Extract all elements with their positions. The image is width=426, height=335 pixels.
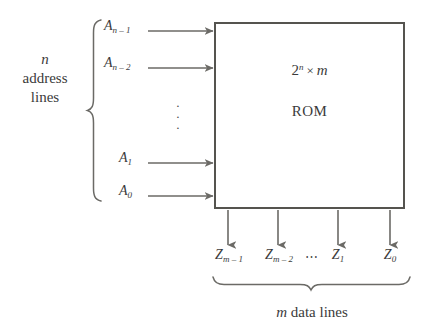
address-line-index-1: n – 2 xyxy=(113,62,131,72)
left-brace-icon xyxy=(88,20,102,201)
address-line-label-0: An – 1 xyxy=(104,18,131,35)
data-line-index-2: 1 xyxy=(340,254,345,264)
address-line-label-3: A0 xyxy=(119,183,132,200)
rom-name-label: ROM xyxy=(214,103,405,120)
address-line-label-2: A1 xyxy=(119,150,132,167)
address-lines-word-lines: lines xyxy=(6,88,84,107)
address-lines-label: n address lines xyxy=(6,50,84,107)
address-lines-word-address: address xyxy=(6,69,84,88)
data-line-base-1: Z xyxy=(265,247,273,262)
address-line-index-3: 0 xyxy=(128,190,133,200)
address-line-base-3: A xyxy=(119,183,128,198)
address-line-index-2: 1 xyxy=(128,157,133,167)
data-line-base-2: Z xyxy=(332,247,340,262)
rom-capacity-base: 2 xyxy=(291,62,299,78)
ellipsis-dot-3: · xyxy=(171,122,185,133)
data-lines-caption: m data lines xyxy=(213,304,411,321)
data-line-index-1: m – 2 xyxy=(273,254,293,264)
rom-capacity-label: 2n×m xyxy=(214,62,405,79)
address-lines-count: n xyxy=(6,50,84,69)
rom-capacity-width: m xyxy=(317,62,328,78)
data-lines-count: m xyxy=(276,304,287,320)
rom-block-diagram: n address lines An – 1 An – 2 A1 A0 · · … xyxy=(0,0,426,335)
data-line-index-0: m – 1 xyxy=(223,254,243,264)
address-lines-vertical-ellipsis: · · · xyxy=(171,100,185,133)
data-line-label-2: Z1 xyxy=(318,247,358,264)
data-line-base-0: Z xyxy=(215,247,223,262)
address-line-base-0: A xyxy=(104,18,113,33)
address-line-index-0: n – 1 xyxy=(113,25,131,35)
address-line-label-1: An – 2 xyxy=(104,55,131,72)
output-arrows-group xyxy=(228,210,390,245)
data-line-index-3: 0 xyxy=(392,254,397,264)
data-line-base-3: Z xyxy=(384,247,392,262)
bottom-brace-icon xyxy=(213,277,410,290)
data-lines-caption-text: data lines xyxy=(291,304,348,320)
address-line-base-2: A xyxy=(119,150,128,165)
multiplication-sign-icon: × xyxy=(303,63,316,78)
data-line-label-1: Zm – 2 xyxy=(249,247,309,264)
data-line-label-3: Z0 xyxy=(370,247,410,264)
address-line-base-1: A xyxy=(104,55,113,70)
